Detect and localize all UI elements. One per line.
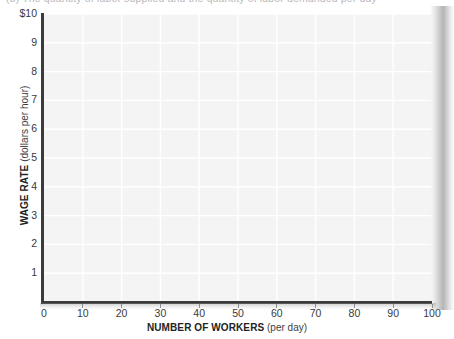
gridlines bbox=[44, 14, 432, 302]
x-axis-tick-label: 50 bbox=[232, 307, 244, 319]
x-axis-tick-label: 40 bbox=[193, 307, 205, 319]
x-axis-title: NUMBER OF WORKERS (per day) bbox=[0, 322, 454, 333]
plot-area[interactable] bbox=[44, 14, 432, 302]
x-axis-line bbox=[41, 301, 432, 304]
y-axis-title: WAGE RATE (dollars per hour) bbox=[19, 66, 30, 246]
x-axis-tick-label: 30 bbox=[155, 307, 167, 319]
x-axis-tick-label: 20 bbox=[116, 307, 128, 319]
y-axis-line bbox=[41, 13, 44, 304]
x-axis-title-strong: NUMBER OF WORKERS bbox=[147, 322, 264, 333]
x-axis-title-light: (per day) bbox=[267, 322, 307, 333]
y-axis-tick-label: $10 bbox=[6, 7, 37, 19]
x-axis-tick-label: 60 bbox=[271, 307, 283, 319]
y-axis-tick-label: 9 bbox=[6, 36, 37, 48]
y-axis-title-light: (dollars per hour) bbox=[19, 86, 30, 162]
x-axis-tick-label: 100 bbox=[423, 307, 441, 319]
wage-rate-vs-workers-chart: $10987654321 0102030405060708090100 NUMB… bbox=[0, 0, 454, 339]
x-axis-tick-label: 90 bbox=[387, 307, 399, 319]
x-axis-tick-label: 10 bbox=[77, 307, 89, 319]
origin-label: 0 bbox=[41, 307, 47, 319]
y-axis-title-strong: WAGE RATE bbox=[19, 165, 30, 226]
page-edge-shadow bbox=[430, 6, 454, 310]
x-axis-tick-label: 70 bbox=[310, 307, 322, 319]
x-axis-tick-label: 80 bbox=[349, 307, 361, 319]
y-axis-tick-label: 1 bbox=[6, 266, 37, 278]
